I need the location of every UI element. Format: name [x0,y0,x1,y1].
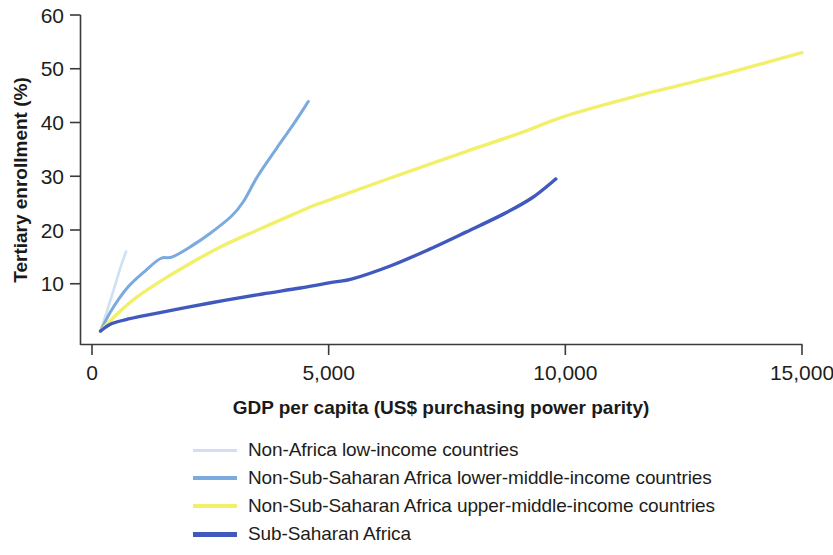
legend-item: Non-Sub-Saharan Africa lower-middle-inco… [193,464,813,492]
x-tick-label: 15,000 [770,361,833,384]
y-tick-label: 10 [41,272,64,295]
legend-label-non-africa-low-income: Non-Africa low-income countries [248,439,518,461]
chart-legend: Non-Africa low-income countries Non-Sub-… [193,436,813,548]
y-axis: 102030405060 [41,4,81,346]
series-lines [101,53,802,331]
x-axis-title: GDP per capita (US$ purchasing power par… [233,397,650,418]
legend-label-lower-middle-income: Non-Sub-Saharan Africa lower-middle-inco… [248,467,712,489]
x-tick-label: 0 [86,361,98,384]
legend-swatch-non-africa-low-income [193,449,237,452]
y-tick-label: 40 [41,111,64,134]
series-line [101,102,309,332]
legend-swatch-upper-middle-income [193,504,237,508]
chart-figure: 102030405060 05,00010,00015,000 Tertiary… [0,0,833,555]
legend-item: Sub-Saharan Africa [193,520,813,548]
y-tick-label: 50 [41,57,64,80]
y-tick-label: 30 [41,165,64,188]
y-axis-ticks: 102030405060 [41,4,81,296]
y-tick-label: 20 [41,219,64,242]
legend-item: Non-Sub-Saharan Africa upper-middle-inco… [193,492,813,520]
y-tick-label: 60 [41,4,64,27]
legend-swatch-sub-saharan-africa [193,532,237,537]
legend-label-upper-middle-income: Non-Sub-Saharan Africa upper-middle-inco… [248,495,715,517]
x-tick-label: 10,000 [533,361,597,384]
legend-swatch-lower-middle-income [193,476,237,480]
legend-label-sub-saharan-africa: Sub-Saharan Africa [248,523,411,545]
x-tick-label: 5,000 [302,361,355,384]
legend-item: Non-Africa low-income countries [193,436,813,464]
x-axis: 05,00010,00015,000 [81,345,833,385]
x-axis-ticks: 05,00010,00015,000 [86,345,833,385]
y-axis-title: Tertiary enrollment (%) [10,77,31,283]
series-line [101,53,802,331]
